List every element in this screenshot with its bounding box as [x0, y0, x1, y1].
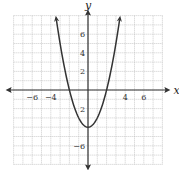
y-axis-label: y [84, 0, 92, 12]
y-tick-label: 4 [80, 49, 85, 58]
y-tick-label: 2 [80, 67, 85, 76]
y-tick-label: 2 [80, 105, 85, 114]
x-tick-label: −4 [45, 93, 57, 102]
x-tick-label: 4 [123, 93, 128, 102]
x-tick-label: −6 [26, 93, 38, 102]
x-axis-label: x [173, 84, 179, 97]
y-tick-label: −6 [73, 142, 85, 151]
parabola-graph: −6−4466422−6 x y [0, 0, 179, 170]
x-tick-label: 6 [141, 93, 146, 102]
y-tick-label: 6 [80, 30, 85, 39]
